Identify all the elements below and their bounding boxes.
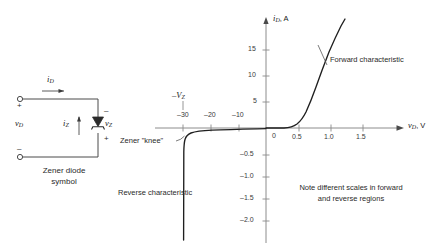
xtick-label-1p5: 1.5 [356, 133, 366, 140]
x-axis-label: vD, V [408, 120, 425, 130]
zener-knee-leader-line [176, 136, 185, 141]
y-axis-label: iD, A [273, 13, 288, 23]
ytick-label-5: 5 [253, 97, 257, 104]
ytick-label-neg0p5: –0.5 [240, 150, 254, 157]
circuit-voltage-vz-label: vZ [105, 118, 112, 128]
zener-diode-symbol-icon [92, 117, 105, 130]
diode-triangle [93, 117, 104, 127]
zener-voltage-label: –VZ [172, 90, 185, 100]
ytick-label-0: 0 [272, 132, 276, 139]
circuit-caption-line2: symbol [18, 177, 110, 186]
ytick-label-15: 15 [248, 45, 256, 52]
reverse-characteristic-curve [184, 129, 266, 240]
current-arrow-iz [77, 116, 81, 135]
xtick-label-neg10: –10 [232, 111, 244, 118]
ytick-label-10: 10 [248, 71, 256, 78]
circuit-schematic [17, 96, 98, 159]
circuit-minus-bottom: – [17, 144, 21, 153]
circuit-caption-line1: Zener diode [18, 166, 110, 175]
xtick-label-neg20: –20 [204, 111, 216, 118]
circuit-current-iz-label: iZ [63, 118, 69, 128]
xtick-label-1p0: 1.0 [324, 133, 334, 140]
circuit-minus-diode: – [104, 106, 108, 115]
annotation-forward-characteristic: Forward characteristic [330, 56, 404, 65]
ytick-label-neg1p0: –1.0 [240, 172, 254, 179]
zener-cathode-bar [92, 127, 105, 130]
circuit-plus-diode: + [104, 134, 109, 143]
annotation-reverse-characteristic: Reverse characteristic [118, 189, 192, 198]
ytick-label-neg2p0: –2.0 [240, 216, 254, 223]
zener-diode-figure: iD + – vD iZ – vZ + Zener diode symbol i… [0, 0, 436, 249]
xtick-label-neg30: –30 [177, 111, 189, 118]
note-scales-line2: and reverse regions [276, 194, 426, 204]
y-axis-arrowhead [263, 17, 268, 24]
forward-characteristic-curve [266, 19, 345, 128]
circuit-plus-top: + [17, 101, 22, 110]
forward-annotation-leader-line [318, 45, 327, 65]
circuit-current-id-label: iD [47, 74, 54, 84]
note-scales-line1: Note different scales in forward [276, 183, 426, 193]
annotation-zener-knee: Zener "knee" [120, 137, 163, 146]
current-arrow-id [42, 89, 64, 93]
xtick-label-0p5: 0.5 [292, 133, 302, 140]
terminal-bottom-node [17, 154, 22, 159]
circuit-voltage-vd-label: vD [15, 118, 23, 128]
x-axis-arrowhead [397, 125, 405, 130]
ytick-label-neg1p5: –1.5 [240, 194, 254, 201]
